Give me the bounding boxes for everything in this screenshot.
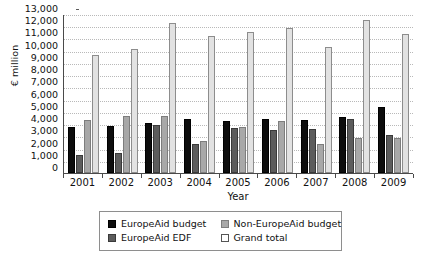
y-axis-tick-label: 8,000 [31, 65, 58, 75]
y-axis-tick-mark [76, 9, 79, 10]
y-axis-tick-label: 0 [52, 163, 58, 173]
legend-item-europeaid-budget: EuropeAid budget [108, 218, 221, 230]
bar-group-2008 [335, 15, 374, 173]
bar [317, 144, 324, 173]
x-axis-tick-label: 2008 [335, 177, 374, 188]
x-axis-tick-label: 2002 [102, 177, 141, 188]
legend-item-europeaid-edf: EuropeAid EDF [108, 232, 221, 244]
y-axis-tick-label: 1,000 [31, 151, 58, 161]
x-axis-tick-label: 2009 [374, 177, 413, 188]
bar [153, 125, 160, 173]
legend-item-label: Grand total [234, 232, 288, 244]
bar [231, 128, 238, 173]
bar-group-2006 [258, 15, 297, 173]
y-axis-tick-label: 2,000 [31, 139, 58, 149]
y-axis-tick-label: 9,000 [31, 53, 58, 63]
y-axis-tick-label: 4,000 [31, 114, 58, 124]
legend-swatch-icon [221, 234, 229, 242]
bar [115, 153, 122, 173]
bar-group-2009 [374, 15, 413, 173]
legend-item-label: Non-EuropeAid budget [234, 218, 342, 230]
y-axis-tick-label: 13,000 [25, 4, 58, 14]
x-axis-tick-label: 2004 [180, 177, 219, 188]
bar-group-2004 [180, 15, 219, 173]
bar-group-2003 [142, 15, 181, 173]
legend-swatch-icon [221, 220, 229, 228]
x-axis-tick-label: 2003 [141, 177, 180, 188]
y-axis-tick-label: 11,000 [25, 28, 58, 38]
bar [309, 129, 316, 173]
chart-legend: EuropeAid budget Non-EuropeAid budget Eu… [99, 211, 342, 251]
legend-row: EuropeAid budget Non-EuropeAid budget [108, 217, 333, 231]
bar [192, 144, 199, 173]
bar [278, 121, 285, 173]
bar [301, 120, 308, 173]
legend-item-label: EuropeAid budget [121, 218, 206, 230]
y-axis-tick-label: 3,000 [31, 126, 58, 136]
bar-group-2001 [64, 15, 103, 173]
bar [402, 34, 409, 173]
bar [386, 135, 393, 173]
bar [107, 126, 114, 173]
x-axis-tick-mark [413, 174, 414, 178]
bar [247, 32, 254, 173]
bar-group-2007 [297, 15, 336, 173]
legend-row: EuropeAid EDF Grand total [108, 231, 333, 245]
bar [184, 119, 191, 173]
bar-chart: € million 13,00012,00011,00010,0009,0008… [0, 0, 441, 257]
bar [123, 116, 130, 173]
bar [339, 117, 346, 173]
y-axis-tick-label: 5,000 [31, 102, 58, 112]
plot-area [63, 15, 413, 174]
bar [325, 47, 332, 173]
bar [378, 107, 385, 173]
legend-swatch-icon [108, 220, 116, 228]
bar [145, 123, 152, 173]
x-axis-tick-labels: 200120022003200420052006200720082009 [63, 177, 413, 188]
y-axis-tick-label: 7,000 [31, 77, 58, 87]
bar [92, 55, 99, 173]
legend-item-grand-total: Grand total [221, 232, 334, 244]
legend-item-label: EuropeAid EDF [121, 232, 191, 244]
bars-layer [64, 15, 413, 173]
bar [239, 127, 246, 173]
bar [208, 36, 215, 173]
bar [270, 130, 277, 173]
bar-group-2005 [219, 15, 258, 173]
bar [262, 119, 269, 173]
legend-item-non-europeaid-budget: Non-EuropeAid budget [221, 218, 334, 230]
x-axis-tick-label: 2001 [63, 177, 102, 188]
y-axis-tick-label: 12,000 [25, 16, 58, 26]
bar [347, 119, 354, 173]
y-axis-tick-label: 6,000 [31, 90, 58, 100]
bar [169, 23, 176, 173]
bar [200, 141, 207, 173]
bar [68, 127, 75, 173]
x-axis-tick-label: 2006 [257, 177, 296, 188]
bar [394, 138, 401, 173]
bar [286, 28, 293, 173]
bar [76, 155, 83, 173]
bar [161, 116, 168, 173]
bar-group-2002 [103, 15, 142, 173]
bar [131, 49, 138, 173]
bar [363, 20, 370, 173]
x-axis-tick-label: 2005 [219, 177, 258, 188]
y-axis-tick-label: 10,000 [25, 41, 58, 51]
bar [223, 121, 230, 173]
legend-swatch-icon [108, 234, 116, 242]
bar [84, 120, 91, 173]
x-axis-tick-label: 2007 [296, 177, 335, 188]
x-axis-title: Year [63, 191, 413, 202]
bar [355, 138, 362, 173]
y-axis-tick-labels: 13,00012,00011,00010,0009,0008,0007,0006… [16, 9, 60, 175]
